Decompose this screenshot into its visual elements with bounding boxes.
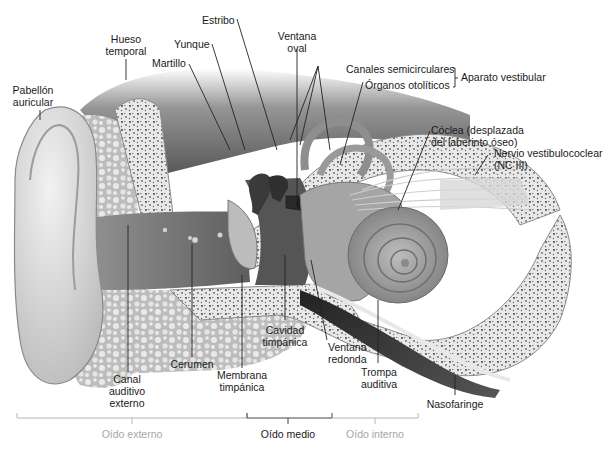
label-ventana-oval: Ventana oval: [278, 30, 317, 54]
ear-anatomy-diagram: Pabellón auricular Hueso temporal Martil…: [0, 0, 612, 451]
ear-illustration: [0, 0, 612, 451]
label-canales-semicirculares: Canales semicirculares: [346, 63, 455, 75]
label-nasofaringe: Nasofaringe: [427, 398, 484, 410]
region-oido-medio: Oído medio: [261, 428, 315, 440]
label-aparato-vestibular: Aparato vestibular: [461, 71, 546, 83]
label-cavidad-timpanica: Cavidad timpánica: [263, 324, 308, 348]
label-organos-otoliticos: Órganos otolíticos: [365, 79, 450, 91]
label-hueso-temporal: Hueso temporal: [106, 33, 147, 57]
label-coclea: Cóclea (desplazada del laberinto óseo): [431, 124, 524, 148]
label-estribo: Estribo: [202, 14, 235, 26]
region-oido-interno: Oído interno: [346, 428, 404, 440]
label-canal-auditivo-externo: Canal auditivo externo: [109, 373, 145, 409]
label-yunque: Yunque: [174, 38, 210, 50]
label-cerumen: Cerumen: [170, 358, 213, 370]
label-nervio-vestibulococlear: Nervio vestibulococlear (NC III): [494, 147, 603, 171]
label-trompa-auditiva: Trompa auditiva: [361, 366, 397, 390]
label-ventana-redonda: Ventana redonda: [328, 341, 367, 365]
region-oido-externo: Oído externo: [102, 428, 163, 440]
ear-region-ruler: [17, 413, 418, 424]
label-martillo: Martillo: [152, 57, 186, 69]
label-membrana-timpanica: Membrana timpánica: [217, 369, 267, 393]
label-pabellon-auricular: Pabellón auricular: [13, 84, 54, 108]
